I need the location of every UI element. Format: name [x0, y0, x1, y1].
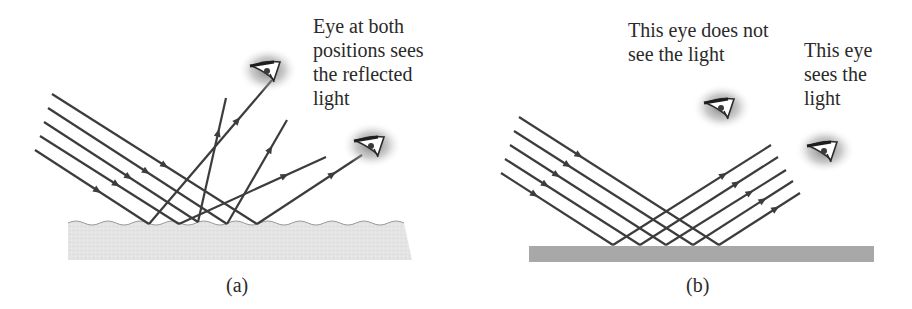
reflected-ray	[149, 80, 272, 224]
incident-ray	[48, 108, 227, 224]
eye-not-seeing-icon	[692, 84, 752, 130]
annotation-b-left-line: see the light	[628, 42, 769, 66]
reflected-ray	[227, 120, 287, 224]
reflection-diagram	[0, 0, 912, 309]
annotation-a-line: positions sees	[313, 38, 424, 62]
eye-lower-icon	[342, 122, 402, 168]
incident-ray	[505, 159, 640, 245]
reflected-ray	[179, 157, 326, 224]
annotation-b-right-line: light	[804, 86, 872, 110]
rough-surface	[68, 221, 412, 260]
annotation-b-right-line: This eye	[804, 38, 872, 62]
annotation-b-right: This eye sees the light	[804, 38, 872, 110]
annotation-a-line: light	[313, 86, 424, 110]
annotation-a-line: Eye at both	[313, 14, 424, 38]
annotation-b-left: This eye does not see the light	[628, 18, 769, 66]
caption-b: (b)	[686, 274, 709, 297]
reflected-ray	[640, 157, 778, 245]
incident-ray	[519, 117, 719, 245]
eye-upper-icon	[238, 47, 298, 93]
annotation-b-left-line: This eye does not	[628, 18, 769, 42]
caption-a: (a)	[226, 274, 248, 297]
incident-ray	[52, 94, 257, 224]
eye-seeing-icon	[795, 127, 855, 173]
smooth-surface	[529, 246, 874, 262]
annotation-b-right-line: sees the	[804, 62, 872, 86]
reflected-ray	[693, 181, 793, 245]
annotation-a-line: the reflected	[313, 62, 424, 86]
reflected-ray	[666, 170, 786, 245]
annotation-a: Eye at both positions sees the reflected…	[313, 14, 424, 110]
